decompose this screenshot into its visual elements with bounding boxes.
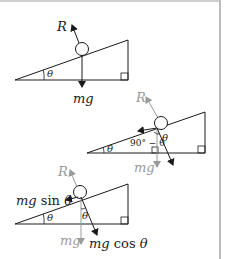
incline-triangle xyxy=(15,40,128,80)
parallel-component-label: mg sin θ xyxy=(16,193,72,208)
reaction-arrow xyxy=(72,25,79,43)
reaction-label: R xyxy=(135,90,146,105)
angle-arc xyxy=(43,214,44,224)
perpendicular-component-label: mg cos θ xyxy=(89,236,148,251)
weight-label: mg xyxy=(134,160,155,175)
diagram-canvas: R mg θ R mg θ 90° − θ θ xyxy=(0,0,229,259)
inclined-plane-force-diagrams: R mg θ R mg θ 90° − θ θ xyxy=(0,0,229,259)
angle-complement-label: 90° − θ xyxy=(130,138,165,148)
angle-arc-ball xyxy=(81,208,86,209)
diagram-1: R mg θ xyxy=(15,19,128,106)
reaction-label: R xyxy=(57,164,68,179)
weight-label: mg xyxy=(73,91,94,106)
weight-label: mg xyxy=(60,233,81,248)
angle-base-label: θ xyxy=(47,212,53,223)
angle-at-ball-label: θ xyxy=(162,132,168,143)
angle-base-label: θ xyxy=(107,143,113,154)
reaction-label: R xyxy=(56,19,67,34)
ball xyxy=(74,186,87,199)
right-angle-marker xyxy=(121,73,128,80)
angle-label: θ xyxy=(47,68,53,79)
reaction-arrow xyxy=(146,97,158,118)
angle-arc xyxy=(43,70,44,80)
right-angle-marker xyxy=(121,217,128,224)
diagram-2: R mg θ 90° − θ θ xyxy=(87,90,205,175)
right-angle-marker xyxy=(198,146,205,153)
reaction-arrow xyxy=(70,170,77,187)
ball xyxy=(155,117,168,130)
angle-arc xyxy=(103,147,104,153)
angle-at-ball-label: θ xyxy=(82,210,88,221)
diagram-3: R mg θ θ mg sin θ mg cos θ xyxy=(15,164,148,251)
ball xyxy=(76,43,89,56)
